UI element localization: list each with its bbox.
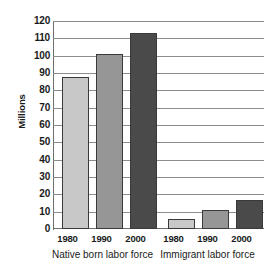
y-tick-label: 90: [4, 68, 50, 78]
bar-chart: Millions 120 110 100 90 80 70 60 50 40 3…: [0, 0, 279, 278]
y-tick-label: 60: [4, 120, 50, 130]
plot-area: [53, 21, 264, 229]
y-tick-label: 10: [4, 207, 50, 217]
y-tick-label: 50: [4, 137, 50, 147]
y-tick-label: 30: [4, 172, 50, 182]
gridline-120: [53, 21, 264, 22]
bar-native-1990: [96, 54, 123, 229]
y-axis-ticks: 120 110 100 90 80 70 60 50 40 30 20 10 0: [0, 21, 50, 229]
x-tick-native-2000: 2000: [116, 233, 155, 244]
y-tick-label: 110: [4, 33, 50, 43]
y-tick-label: 40: [4, 155, 50, 165]
bar-native-1980: [62, 77, 89, 230]
y-tick-label: 100: [4, 51, 50, 61]
gridline-100: [53, 56, 264, 57]
gridline-90: [53, 73, 264, 74]
y-tick-label: 120: [4, 16, 50, 26]
bar-native-2000: [130, 33, 157, 229]
bar-immigrant-1980: [168, 219, 195, 229]
y-tick-label: 20: [4, 189, 50, 199]
y-tick-label: 80: [4, 85, 50, 95]
bar-immigrant-1990: [202, 210, 229, 229]
gridline-110: [53, 38, 264, 39]
group-label-immigrant: Immigrant labor force: [140, 249, 275, 260]
y-tick-label: 0: [4, 224, 50, 234]
bar-immigrant-2000: [236, 200, 263, 230]
x-tick-immigrant-2000: 2000: [222, 233, 261, 244]
y-tick-label: 70: [4, 103, 50, 113]
